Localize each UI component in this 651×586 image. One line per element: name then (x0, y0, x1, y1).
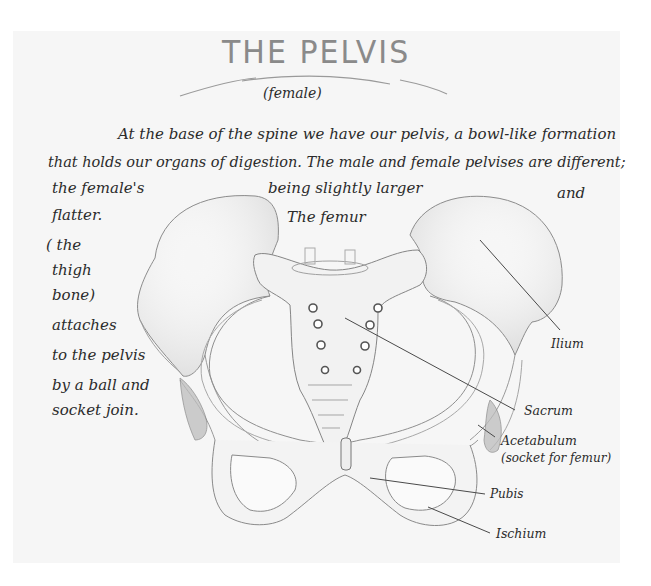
side-note-line-4: attaches (52, 318, 117, 333)
label-acetabulum: Acetabulum (501, 435, 577, 448)
paragraph-line-3-right: and (557, 186, 585, 201)
side-note-line-7: socket join. (52, 403, 139, 418)
left-ilium-bone (138, 196, 279, 445)
paragraph-line-1: At the base of the spine we have our pel… (118, 127, 616, 142)
side-note-line-3: bone) (52, 288, 95, 303)
paragraph-line-3-left: the female's (52, 181, 144, 196)
paragraph-line-2: that holds our organs of digestion. The … (48, 155, 626, 170)
side-note-line-6: by a ball and (52, 378, 150, 393)
label-sacrum: Sacrum (524, 405, 573, 418)
label-ilium: Ilium (551, 338, 584, 351)
paragraph-line-3-mid: being slightly larger (268, 181, 423, 196)
page-subtitle: (female) (263, 86, 322, 100)
sacrum-bone (254, 248, 427, 452)
label-acetabulum-note: (socket for femur) (501, 452, 611, 464)
side-note-line-5: to the pelvis (52, 348, 145, 363)
pelvis-illustration (0, 0, 651, 586)
page-title: THE PELVIS (222, 33, 410, 70)
paragraph-line-4-mid: The femur (287, 210, 366, 225)
label-ischium: Ischium (496, 528, 546, 541)
paragraph-line-4-left: flatter. (52, 208, 102, 223)
side-note-line-1: ( the (46, 238, 81, 253)
label-pubis: Pubis (490, 488, 523, 500)
side-note-line-2: thigh (52, 263, 92, 278)
